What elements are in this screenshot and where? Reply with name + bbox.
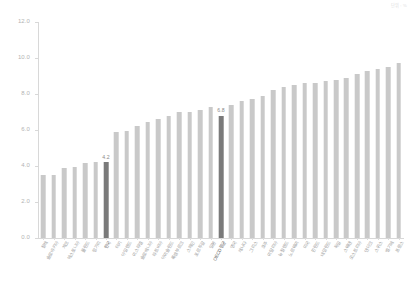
y-axis-tick-label: 12.0 — [18, 18, 30, 24]
x-axis-label: 헝가리 — [92, 241, 102, 254]
bar-slot[interactable] — [373, 22, 383, 238]
bar[interactable] — [261, 96, 266, 238]
bar-slot[interactable] — [48, 22, 58, 238]
bar[interactable] — [344, 78, 349, 238]
bar[interactable] — [271, 90, 276, 238]
y-axis-tick-label: 10.0 — [18, 54, 30, 60]
bar-slot[interactable] — [90, 22, 100, 238]
x-axis-label: 일본 — [209, 241, 217, 250]
x-axis-label: 벨기에 — [385, 241, 395, 254]
bar-chart: 단위 : % 0.02.04.06.08.010.012.0 4.26.8 칠레… — [0, 0, 411, 282]
bar-slot[interactable] — [268, 22, 278, 238]
x-axis-label: 캐나다 — [238, 241, 248, 254]
bar[interactable] — [240, 101, 245, 238]
bar-slot[interactable] — [59, 22, 69, 238]
x-axis-label: 프랑스 — [395, 241, 405, 254]
bar-value-label: 6.8 — [217, 107, 225, 113]
bar-slot[interactable] — [247, 22, 257, 238]
bar-highlighted[interactable] — [219, 116, 224, 238]
bar-slot[interactable] — [184, 22, 194, 238]
y-axis-tick-label: 8.0 — [21, 90, 30, 96]
bar-slot[interactable] — [362, 22, 372, 238]
bar-slot[interactable] — [279, 22, 289, 238]
bar-slot[interactable] — [80, 22, 90, 238]
bar-slot[interactable] — [111, 22, 121, 238]
bar[interactable] — [187, 112, 192, 238]
bar-slot[interactable] — [341, 22, 351, 238]
x-axis-label: 그리스 — [249, 241, 259, 254]
plot-area: 4.26.8 — [38, 22, 404, 238]
bar[interactable] — [386, 67, 391, 238]
bar-slot[interactable] — [320, 22, 330, 238]
bar-slot[interactable] — [69, 22, 79, 238]
x-axis-label: 독일 — [334, 241, 342, 250]
bar-slot[interactable] — [195, 22, 205, 238]
x-axis-label: 덴마크 — [364, 241, 374, 254]
bar-slot[interactable] — [153, 22, 163, 238]
bar[interactable] — [135, 126, 140, 238]
bar-slot[interactable]: 6.8 — [216, 22, 226, 238]
bar[interactable] — [281, 87, 286, 238]
bar[interactable] — [292, 85, 297, 238]
bar[interactable] — [334, 80, 339, 238]
bar[interactable] — [41, 175, 46, 238]
bar-slot[interactable] — [299, 22, 309, 238]
bar[interactable] — [72, 167, 77, 238]
bar-slot[interactable] — [352, 22, 362, 238]
bar-slot[interactable] — [258, 22, 268, 238]
bar[interactable] — [166, 116, 171, 238]
bar-slot[interactable] — [122, 22, 132, 238]
bar-slot[interactable] — [289, 22, 299, 238]
bar-slot[interactable] — [226, 22, 236, 238]
bar-highlighted[interactable] — [104, 162, 109, 238]
x-axis-label: 네덜란드 — [320, 241, 332, 257]
y-axis-tick-label: 0.0 — [21, 234, 30, 240]
bar[interactable] — [208, 107, 213, 238]
x-axis-label: 포르투갈 — [195, 241, 207, 257]
bar-slot[interactable] — [38, 22, 48, 238]
y-axis-tick-label: 6.0 — [21, 126, 30, 132]
bar-slot[interactable] — [394, 22, 404, 238]
x-axis-label: 영국 — [230, 241, 238, 250]
y-axis-tick-mark — [35, 238, 38, 239]
x-axis-label: 호주 — [261, 241, 269, 250]
bar[interactable] — [323, 81, 328, 238]
bar[interactable] — [229, 105, 234, 238]
bar-value-label: 4.2 — [102, 154, 110, 160]
y-axis-tick-label: 2.0 — [21, 198, 30, 204]
bar[interactable] — [145, 122, 150, 238]
bar[interactable] — [114, 132, 119, 238]
bar[interactable] — [51, 175, 56, 238]
y-axis-tick-label: 4.0 — [21, 162, 30, 168]
x-axis-label: 칠레 — [42, 241, 50, 250]
bar[interactable] — [365, 71, 370, 238]
bar[interactable] — [396, 63, 401, 238]
bar[interactable] — [156, 119, 161, 238]
bar[interactable] — [250, 99, 255, 238]
bar[interactable] — [355, 74, 360, 238]
bar[interactable] — [62, 168, 67, 238]
x-axis-label: 스위스 — [374, 241, 384, 254]
bar-slot[interactable] — [331, 22, 341, 238]
bar[interactable] — [302, 83, 307, 238]
bar[interactable] — [376, 69, 381, 238]
bar[interactable] — [83, 163, 88, 238]
bar[interactable] — [125, 131, 130, 238]
bar-slot[interactable] — [132, 22, 142, 238]
bar-slot[interactable] — [383, 22, 393, 238]
bar-slot[interactable] — [310, 22, 320, 238]
bar[interactable] — [177, 112, 182, 238]
x-axis-label: 폴란드 — [82, 241, 92, 254]
x-axis-label: 체코 — [63, 241, 71, 250]
bar-slot[interactable] — [205, 22, 215, 238]
bar[interactable] — [313, 83, 318, 238]
bar-slot[interactable] — [174, 22, 184, 238]
bar-slot[interactable] — [163, 22, 173, 238]
x-axis-label: 터키 — [115, 241, 123, 250]
bar-slot[interactable] — [237, 22, 247, 238]
bar[interactable] — [198, 110, 203, 238]
bar[interactable] — [93, 162, 98, 238]
bar-slot[interactable]: 4.2 — [101, 22, 111, 238]
bar-slot[interactable] — [143, 22, 153, 238]
x-axis-label: 한국 — [104, 241, 112, 250]
